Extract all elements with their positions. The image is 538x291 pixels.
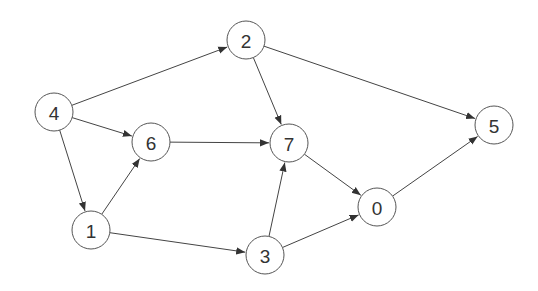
node-1: 1: [72, 211, 110, 249]
edge-1-to-3: [110, 233, 245, 252]
node-label: 3: [260, 246, 271, 267]
node-label: 5: [489, 116, 500, 137]
node-label: 4: [49, 103, 60, 124]
edge-4-to-6: [72, 118, 132, 136]
edge-4-to-2: [72, 47, 227, 105]
node-5: 5: [475, 106, 513, 144]
directed-graph: 42675130: [0, 0, 538, 291]
node-label: 1: [86, 221, 97, 242]
edge-7-to-0: [304, 154, 360, 195]
edge-2-to-7: [253, 58, 281, 125]
edge-1-to-6: [102, 159, 140, 215]
edges: [60, 46, 478, 252]
node-label: 2: [241, 31, 252, 52]
edge-6-to-7: [170, 142, 269, 143]
node-label: 7: [284, 134, 295, 155]
edge-3-to-0: [282, 215, 358, 248]
node-4: 4: [35, 93, 73, 131]
node-label: 0: [372, 198, 383, 219]
edge-3-to-7: [269, 163, 285, 237]
node-7: 7: [270, 124, 308, 162]
node-2: 2: [227, 21, 265, 59]
node-label: 6: [146, 133, 157, 154]
node-3: 3: [246, 236, 284, 274]
edge-4-to-1: [60, 130, 85, 211]
node-0: 0: [358, 188, 396, 226]
edge-2-to-5: [264, 46, 475, 118]
node-6: 6: [132, 123, 170, 161]
nodes: 42675130: [35, 21, 513, 274]
edge-0-to-5: [393, 136, 478, 196]
